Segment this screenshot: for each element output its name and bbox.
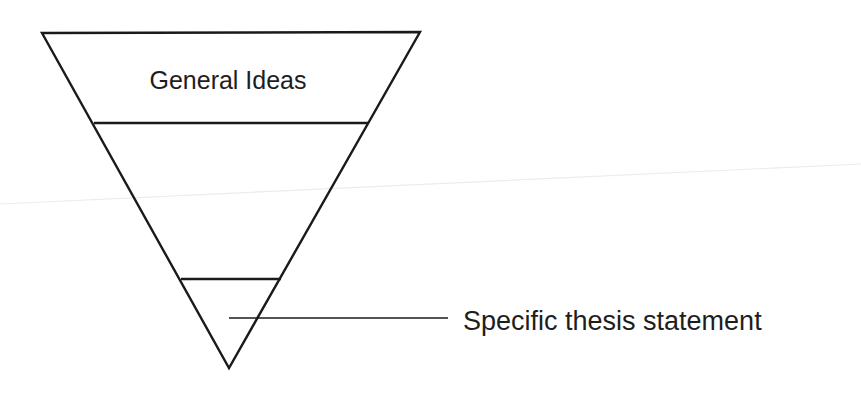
scan-artifact-line <box>0 164 861 204</box>
callout-label-thesis-statement: Specific thesis statement <box>463 306 762 336</box>
section-label-general-ideas: General Ideas <box>149 66 306 94</box>
inverted-funnel-diagram: General Ideas Specific thesis statement <box>0 0 861 396</box>
